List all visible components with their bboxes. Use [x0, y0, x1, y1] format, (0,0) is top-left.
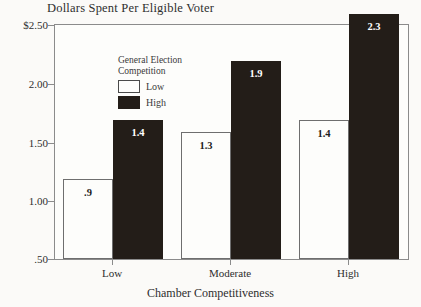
- legend-label-low: Low: [146, 81, 164, 92]
- legend-swatch-low-icon: [118, 80, 140, 93]
- bar-moderate-low: 1.3: [181, 132, 231, 259]
- bar-low-low: .9: [63, 179, 113, 259]
- y-axis-labels: $2.50 2.00 1.50 1.00 .50: [0, 0, 48, 307]
- x-tick-mark: [112, 260, 113, 265]
- bar-low-high: 1.4: [113, 120, 163, 259]
- bar-value-label: 1.4: [300, 128, 348, 139]
- legend-swatch-high-icon: [118, 96, 140, 109]
- bar-value-label: 1.4: [114, 127, 162, 138]
- plot-area: General Election Competition Low High .9…: [54, 24, 409, 260]
- legend-item-low: Low: [118, 80, 238, 93]
- chart-figure: Dollars Spent Per Eligible Voter $2.50 2…: [0, 0, 421, 307]
- chart-title: Dollars Spent Per Eligible Voter: [47, 1, 214, 16]
- y-tick-label: .50: [34, 253, 48, 265]
- x-axis-title: Chamber Competitiveness: [0, 286, 421, 301]
- y-tick-label: 2.00: [29, 78, 48, 90]
- legend: General Election Competition Low High: [118, 55, 238, 109]
- legend-title-line-2: Competition: [118, 66, 238, 77]
- legend-title-line-1: General Election: [118, 55, 238, 66]
- bar-moderate-high: 1.9: [231, 61, 281, 259]
- bar-high-high: 2.3: [349, 14, 399, 259]
- y-tick-label: 1.00: [29, 195, 48, 207]
- y-tick-label: 1.50: [29, 137, 48, 149]
- x-label-high: High: [337, 267, 359, 279]
- y-tick-label: $2.50: [23, 19, 48, 31]
- bar-value-label: 1.9: [232, 68, 280, 79]
- x-label-moderate: Moderate: [209, 267, 251, 279]
- x-tick-mark: [348, 260, 349, 265]
- bar-value-label: 1.3: [182, 140, 230, 151]
- legend-item-high: High: [118, 96, 238, 109]
- legend-label-high: High: [146, 97, 166, 108]
- bar-high-low: 1.4: [299, 120, 349, 259]
- x-label-low: Low: [102, 267, 122, 279]
- bar-value-label: 2.3: [350, 21, 398, 32]
- x-tick-mark: [230, 260, 231, 265]
- bar-value-label: .9: [64, 187, 112, 198]
